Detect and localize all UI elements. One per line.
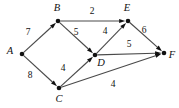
node-a <box>20 52 25 57</box>
edge-d-e <box>97 27 122 53</box>
graph-canvas: 782544456 ABCDEF <box>0 0 179 108</box>
node-label-b: B <box>54 2 61 13</box>
edge-weight-c-d: 4 <box>61 63 66 73</box>
edge-weight-e-f: 6 <box>142 25 147 35</box>
edge-weight-b-e: 2 <box>90 6 95 16</box>
node-label-e: E <box>123 2 131 13</box>
edge-weight-b-d: 5 <box>74 27 79 37</box>
edge-weight-c-f: 4 <box>111 79 116 89</box>
node-e <box>126 19 131 24</box>
node-f <box>162 51 167 56</box>
edges-layer <box>24 21 158 87</box>
node-label-a: A <box>6 45 14 56</box>
edge-d-f <box>97 53 155 55</box>
edge-weight-d-e: 4 <box>103 26 108 36</box>
edge-weight-a-c: 8 <box>28 70 33 80</box>
node-c <box>57 86 62 91</box>
node-label-f: F <box>168 49 176 60</box>
edge-weight-d-f: 5 <box>127 39 132 49</box>
node-b <box>56 19 61 24</box>
edge-weight-labels-layer: 782544456 <box>26 6 147 89</box>
node-label-c: C <box>55 93 63 104</box>
arrowhead-b-e <box>119 19 125 23</box>
node-label-d: D <box>96 57 105 68</box>
graph-diagram: 782544456 ABCDEF <box>0 0 179 108</box>
edge-weight-a-b: 7 <box>26 27 31 37</box>
edge-c-f <box>61 56 155 87</box>
